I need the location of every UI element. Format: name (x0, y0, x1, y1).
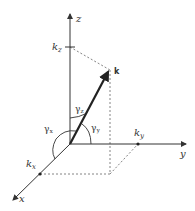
ky-label: ky (134, 127, 145, 140)
gamma-x-arc (53, 131, 76, 159)
kz-label: kz (52, 41, 62, 54)
gamma-y-arc (82, 124, 91, 144)
kz-projection-line (70, 47, 110, 70)
ky-projection-line (110, 144, 138, 174)
gamma-z-label: γz (75, 104, 84, 114)
projection-lines (40, 47, 138, 174)
kx-label: kx (26, 158, 36, 171)
vector-direction-diagram: z y x k kz ky kx γz γy γx (0, 0, 195, 211)
y-axis-label: y (179, 148, 186, 159)
kx-point (38, 172, 41, 175)
x-axis (13, 144, 70, 200)
z-axis-label: z (75, 13, 82, 24)
diagram-canvas: z y x k kz ky kx γz γy γx (0, 0, 195, 211)
gamma-z-arc (70, 114, 85, 118)
gamma-y-label: γy (91, 123, 100, 134)
x-axis-label: x (19, 193, 25, 204)
ky-point (136, 142, 139, 145)
gamma-x-label: γx (44, 124, 53, 134)
k-vector-label: k (114, 67, 120, 76)
